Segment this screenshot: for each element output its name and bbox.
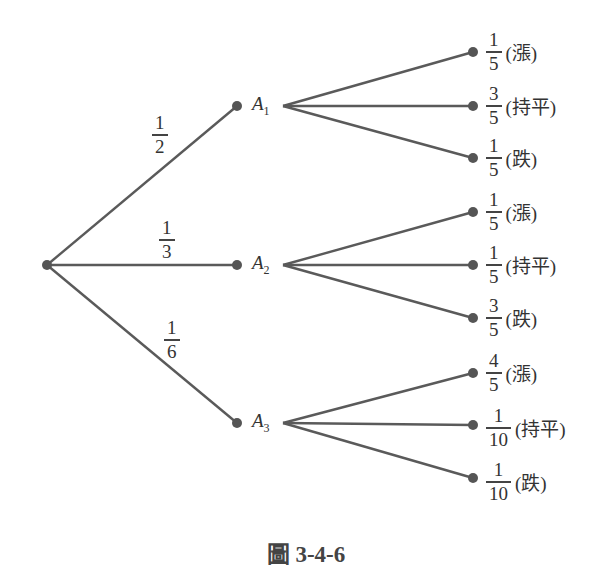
outcome-label: (持平)	[506, 92, 557, 119]
numerator: 4	[486, 351, 502, 371]
edge-root-a1	[47, 106, 237, 265]
leaf-prob: 35	[486, 296, 502, 340]
event-subscript: 3	[264, 421, 270, 435]
numerator: 3	[486, 296, 502, 316]
edge-a1-down	[283, 106, 473, 158]
leaf-prob: 35	[486, 84, 502, 128]
denominator: 10	[486, 430, 511, 450]
numerator: 1	[486, 243, 502, 263]
numerator: 1	[164, 318, 180, 338]
numerator: 1	[152, 113, 168, 133]
node-a2	[232, 260, 242, 270]
node-a1	[232, 101, 242, 111]
outcome-label: (持平)	[506, 251, 557, 278]
leaf-node	[468, 47, 478, 57]
edge-root-a3	[47, 265, 237, 423]
edge-a3-up	[283, 373, 473, 423]
outcome-label: (跌)	[506, 144, 538, 171]
leaf-prob: 15	[486, 243, 502, 287]
numerator: 1	[486, 136, 502, 156]
leaf-prob: 110	[486, 460, 511, 504]
numerator: 1	[159, 218, 175, 238]
branch-prob-a2: 1 3	[159, 218, 175, 262]
leaf-prob: 15	[486, 30, 502, 74]
leaf-node	[468, 368, 478, 378]
leaf-a2-flat: 15 (持平)	[486, 243, 556, 287]
outcome-label: (跌)	[515, 468, 547, 495]
leaf-a1-up: 15 (漲)	[486, 30, 537, 74]
leaf-prob: 45	[486, 351, 502, 395]
edge-a1-up	[283, 52, 473, 106]
outcome-label: (持平)	[515, 414, 566, 441]
event-name: A	[252, 410, 264, 431]
outcome-label: (漲)	[506, 198, 538, 225]
leaf-prob: 15	[486, 190, 502, 234]
leaf-a3-flat: 110 (持平)	[486, 406, 566, 450]
numerator: 1	[486, 30, 502, 50]
leaf-node	[468, 313, 478, 323]
denominator: 5	[486, 108, 502, 128]
numerator: 1	[491, 460, 507, 480]
branch-prob-a1: 1 2	[152, 113, 168, 157]
denominator: 5	[486, 320, 502, 340]
leaf-node	[468, 260, 478, 270]
leaf-a1-down: 15 (跌)	[486, 136, 537, 180]
edge-a2-up	[283, 212, 473, 265]
numerator: 1	[486, 190, 502, 210]
event-subscript: 1	[264, 104, 270, 118]
edge-a3-flat	[283, 423, 473, 425]
label-a3: A3	[252, 410, 270, 436]
denominator: 5	[486, 214, 502, 234]
numerator: 1	[491, 406, 507, 426]
leaf-node	[468, 153, 478, 163]
edge-a2-down	[283, 265, 473, 318]
denominator: 10	[486, 484, 511, 504]
edge-a3-down	[283, 423, 473, 478]
leaf-prob: 110	[486, 406, 511, 450]
event-subscript: 2	[264, 263, 270, 277]
outcome-label: (跌)	[506, 304, 538, 331]
denominator: 6	[164, 342, 180, 362]
figure-caption: 圖 3-4-6	[0, 535, 612, 569]
node-a3	[232, 418, 242, 428]
leaf-node	[468, 101, 478, 111]
root-node	[42, 260, 52, 270]
label-a1: A1	[252, 93, 270, 119]
leaf-node	[468, 473, 478, 483]
denominator: 5	[486, 375, 502, 395]
event-name: A	[252, 252, 264, 273]
denominator: 2	[152, 137, 168, 157]
denominator: 5	[486, 160, 502, 180]
outcome-label: (漲)	[506, 359, 538, 386]
leaf-a1-flat: 35 (持平)	[486, 84, 556, 128]
denominator: 3	[159, 242, 175, 262]
leaf-a3-up: 45 (漲)	[486, 351, 537, 395]
leaf-prob: 15	[486, 136, 502, 180]
label-a2: A2	[252, 252, 270, 278]
denominator: 5	[486, 54, 502, 74]
leaf-a3-down: 110 (跌)	[486, 460, 547, 504]
leaf-node	[468, 420, 478, 430]
branch-prob-a3: 1 6	[164, 318, 180, 362]
leaf-node	[468, 207, 478, 217]
event-name: A	[252, 93, 264, 114]
denominator: 5	[486, 267, 502, 287]
numerator: 3	[486, 84, 502, 104]
outcome-label: (漲)	[506, 38, 538, 65]
leaf-a2-up: 15 (漲)	[486, 190, 537, 234]
leaf-a2-down: 35 (跌)	[486, 296, 537, 340]
